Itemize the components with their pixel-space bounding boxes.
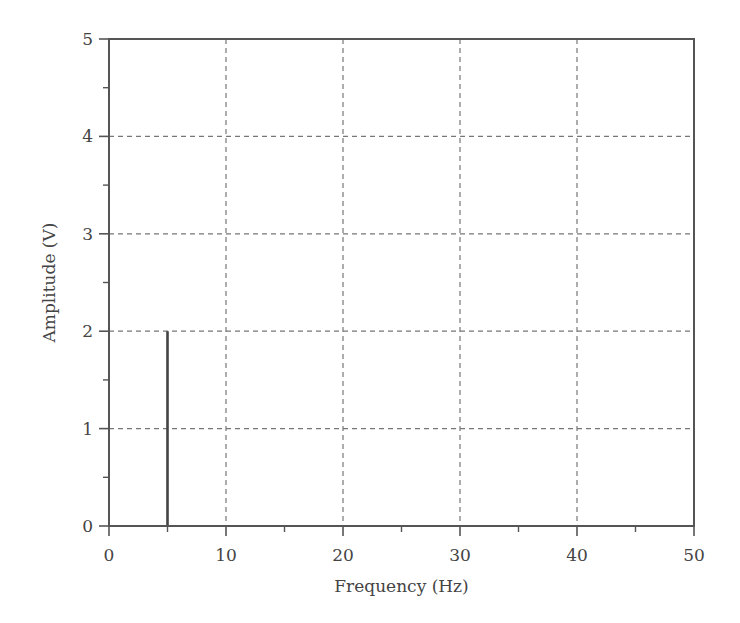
plot-frame xyxy=(109,39,694,526)
y-axis-title: Amplitude (V) xyxy=(39,223,59,344)
y-tick-label: 4 xyxy=(82,126,93,146)
y-tick-label: 2 xyxy=(82,321,93,341)
grid-lines xyxy=(109,39,694,526)
x-tick-label: 10 xyxy=(215,545,237,565)
x-tick-label: 20 xyxy=(332,545,354,565)
y-tick-label: 0 xyxy=(82,516,93,536)
x-axis-title: Frequency (Hz) xyxy=(334,576,468,596)
x-tick-label: 30 xyxy=(449,545,471,565)
y-tick-label: 3 xyxy=(82,224,93,244)
y-tick-labels: 012345 xyxy=(82,29,93,536)
y-tick-label: 1 xyxy=(82,419,93,439)
x-tick-labels: 01020304050 xyxy=(104,545,705,565)
y-tick-label: 5 xyxy=(82,29,93,49)
amplitude-spectrum-chart: 01020304050 012345 Frequency (Hz) Amplit… xyxy=(0,0,740,623)
x-tick-label: 50 xyxy=(683,545,705,565)
axis-ticks xyxy=(99,39,694,536)
x-tick-label: 40 xyxy=(566,545,588,565)
x-tick-label: 0 xyxy=(104,545,115,565)
